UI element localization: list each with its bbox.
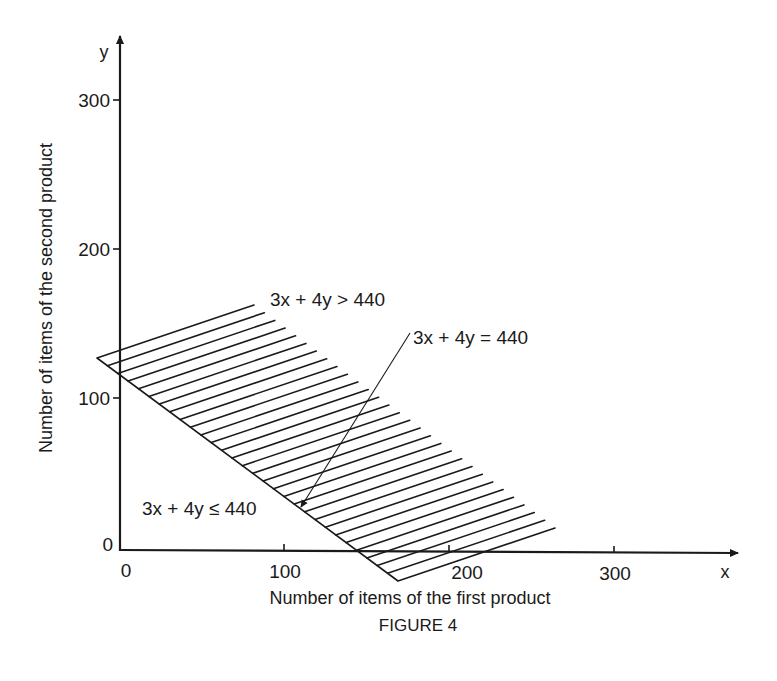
- hatch-line: [118, 320, 275, 373]
- hatch-line: [377, 513, 534, 566]
- hatch-line: [159, 351, 316, 404]
- label-less-equal: 3x + 4y ≤ 440: [142, 498, 256, 519]
- y-axis-letter: y: [100, 42, 109, 62]
- hatch-line: [232, 405, 389, 458]
- hatch-line: [201, 382, 358, 435]
- label-greater-than: 3x + 4y > 440: [270, 289, 385, 310]
- hatch-line: [315, 467, 472, 520]
- hatch-line: [253, 420, 410, 473]
- figure-caption: FIGURE 4: [379, 616, 457, 635]
- hatch-line: [273, 436, 430, 489]
- hatch-line: [222, 397, 379, 450]
- hatch-line: [325, 474, 482, 527]
- y-tick-label-200: 200: [78, 239, 110, 260]
- x-axis-title: Number of items of the first product: [269, 588, 550, 608]
- hatch-line: [305, 459, 462, 512]
- hatch-line: [336, 482, 493, 535]
- x-axis-letter: x: [721, 562, 730, 582]
- inequality-figure: 300 200 100 0 0 100 200 300 y x Number o…: [0, 0, 777, 681]
- x-tick-label-100: 100: [269, 561, 301, 582]
- x-tick-label-300: 300: [599, 563, 631, 584]
- x-tick-label-200: 200: [451, 562, 483, 583]
- boundary-line: [97, 358, 398, 581]
- hatch-line: [149, 343, 306, 396]
- hatch-line: [294, 451, 451, 504]
- y-axis-title: Number of items of the second product: [36, 143, 56, 453]
- hatch-line: [211, 390, 368, 443]
- hatch-line: [139, 336, 296, 389]
- hatch-line: [346, 490, 503, 543]
- hatch-line: [263, 428, 420, 481]
- hatch-line: [107, 313, 264, 366]
- y-tick-label-0: 0: [102, 534, 113, 555]
- hatch-line: [190, 374, 347, 427]
- hatch-line: [284, 443, 441, 496]
- y-tick-label-100: 100: [78, 388, 110, 409]
- hatch-line: [357, 497, 514, 550]
- hatch-line: [128, 328, 285, 381]
- x-axis: [119, 550, 738, 553]
- y-tick-label-300: 300: [78, 90, 110, 111]
- hatch-line: [367, 505, 524, 558]
- hatch-line: [170, 359, 327, 412]
- hatch-line: [180, 367, 337, 420]
- label-equals: 3x + 4y = 440: [413, 327, 528, 348]
- x-tick-label-0: 0: [121, 560, 132, 581]
- hatch-line: [242, 413, 399, 466]
